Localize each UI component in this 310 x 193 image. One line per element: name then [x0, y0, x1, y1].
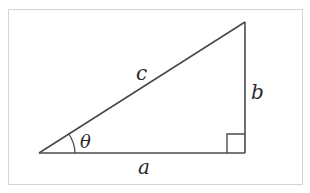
side-hypotenuse-c: [39, 22, 245, 153]
label-opposite-b: b: [251, 80, 264, 104]
label-adjacent-a: a: [138, 155, 150, 179]
right-angle-marker-icon: [227, 134, 245, 153]
label-hypotenuse-c: c: [136, 61, 147, 85]
angle-arc-icon: [69, 134, 76, 154]
label-angle-theta: θ: [80, 131, 91, 152]
right-triangle-diagram: c b θ a: [0, 0, 310, 193]
